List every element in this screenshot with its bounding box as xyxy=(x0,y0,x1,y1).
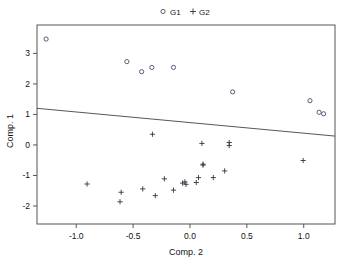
regression-line xyxy=(37,108,335,136)
x-tick-label: -0.5 xyxy=(126,231,141,241)
series-G1 xyxy=(44,37,326,116)
legend-circle-icon xyxy=(161,9,165,13)
data-point-circle xyxy=(125,60,129,64)
data-point-plus xyxy=(227,143,232,148)
data-point-plus xyxy=(150,132,155,137)
data-point-plus xyxy=(117,199,122,204)
data-point-circle xyxy=(308,99,312,103)
y-tick-label: -2 xyxy=(22,201,30,211)
y-tick-label: -1 xyxy=(22,170,30,180)
data-point-plus xyxy=(199,141,204,146)
data-point-plus xyxy=(84,181,89,186)
legend-plus-icon xyxy=(190,9,196,15)
y-tick-label: 1 xyxy=(25,109,30,119)
data-point-plus xyxy=(194,180,199,185)
x-axis-title: Comp. 2 xyxy=(169,247,203,257)
series-G2 xyxy=(84,132,305,205)
y-tick-label: 3 xyxy=(25,48,30,58)
scatter-plot-figure: G1 G2 -1.0-0.50.00.51.0 -2-10123 Comp. 2… xyxy=(0,0,345,262)
plot-canvas: G1 G2 -1.0-0.50.00.51.0 -2-10123 Comp. 2… xyxy=(0,0,345,262)
data-point-plus xyxy=(140,186,145,191)
data-point-plus xyxy=(162,176,167,181)
y-tick-label: 0 xyxy=(25,140,30,150)
data-points-layer xyxy=(44,37,326,204)
x-tick-label: 0.0 xyxy=(184,231,196,241)
data-point-plus xyxy=(200,162,205,167)
y-axis-ticks: -2-10123 xyxy=(22,48,37,211)
data-point-plus xyxy=(211,175,216,180)
data-point-plus xyxy=(183,182,188,187)
data-point-plus xyxy=(153,193,158,198)
x-axis-ticks: -1.0-0.50.00.51.0 xyxy=(69,224,310,241)
data-point-circle xyxy=(322,112,326,116)
data-point-plus xyxy=(180,181,185,186)
y-tick-label: 2 xyxy=(25,79,30,89)
data-point-plus xyxy=(222,168,227,173)
data-point-circle xyxy=(317,110,321,114)
data-point-circle xyxy=(44,37,48,41)
legend: G1 G2 xyxy=(161,8,210,17)
x-tick-label: -1.0 xyxy=(69,231,84,241)
x-tick-label: 1.0 xyxy=(298,231,310,241)
legend-label-g1: G1 xyxy=(170,8,181,17)
data-point-plus xyxy=(196,175,201,180)
legend-label-g2: G2 xyxy=(199,8,210,17)
data-point-circle xyxy=(231,90,235,94)
data-point-circle xyxy=(171,65,175,69)
y-axis-title: Comp. 1 xyxy=(5,114,15,148)
data-point-circle xyxy=(140,70,144,74)
plot-frame xyxy=(37,25,335,224)
data-point-plus xyxy=(119,190,124,195)
data-point-plus xyxy=(182,179,187,184)
x-tick-label: 0.5 xyxy=(241,231,253,241)
data-point-circle xyxy=(150,65,154,69)
data-point-plus xyxy=(301,158,306,163)
data-point-plus xyxy=(171,188,176,193)
